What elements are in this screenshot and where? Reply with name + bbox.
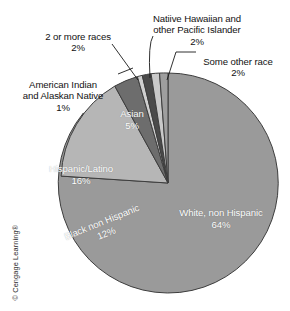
slice-label-hispanic-name: Hispanic/Latino	[49, 163, 113, 174]
slice-label-white-pct: 64%	[166, 219, 276, 230]
leader-line-american-indian	[118, 68, 133, 74]
callout-label-american-indian: American Indian and Alaskan Native	[23, 79, 103, 101]
slice-label-asian-name: Asian	[120, 108, 144, 119]
callout-two-or-more-races: 2 or more races 2%	[26, 20, 130, 65]
copyright-credit: © Cengage Learning®	[11, 205, 20, 301]
callout-american-indian: American Indian and Alaskan Native 1%	[6, 68, 120, 124]
slice-label-white-non-hispanic: White, non Hispanic 64%	[166, 196, 276, 242]
slice-label-asian: Asian 5%	[104, 97, 160, 143]
slice-label-hispanic-latino: Hispanic/Latino 16%	[33, 152, 129, 198]
callout-pct-some-other-race: 2%	[188, 67, 288, 78]
slice-label-hispanic-pct: 16%	[33, 175, 129, 186]
figure-canvas: 2 or more races 2% Natiive Hawaiian and …	[0, 0, 290, 311]
callout-label-some-other-race: Some other race	[203, 56, 272, 67]
callout-label-native-hawaiian: Natiive Hawaiian and other Pacific Islan…	[153, 13, 241, 35]
callout-pct-two-or-more-races: 2%	[26, 42, 130, 53]
callout-pct-american-indian: 1%	[6, 102, 120, 113]
slice-label-asian-pct: 5%	[104, 120, 160, 131]
slice-label-white-name: White, non Hispanic	[179, 207, 262, 218]
callout-some-other-race: Some other race 2%	[188, 45, 288, 90]
callout-label-two-or-more-races: 2 or more races	[45, 31, 111, 42]
